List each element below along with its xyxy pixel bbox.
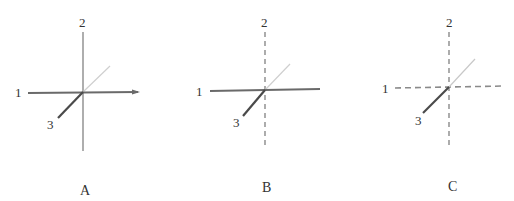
axis-triad-figure: 1 2 3 A 1 2 3 B 1 2 3 C	[0, 0, 514, 201]
axis-3-label: 3	[415, 113, 422, 128]
axis-3-line	[423, 87, 449, 113]
axis-1-arrowhead-icon	[132, 90, 140, 95]
axis-1-label: 1	[15, 85, 22, 100]
panel-c: 1 2 3 C	[382, 15, 505, 194]
panel-caption: C	[448, 179, 457, 194]
axis-3-light-line	[449, 59, 475, 87]
panel-a: 1 2 3 A	[15, 15, 140, 198]
axis-3-light-line	[265, 64, 290, 90]
axis-3-label: 3	[233, 115, 240, 130]
panel-caption: B	[262, 180, 271, 195]
axis-3-label: 3	[47, 117, 54, 132]
axis-2-label: 2	[79, 15, 86, 30]
axis-3-light-line	[83, 66, 110, 92]
axis-1-label: 1	[382, 81, 389, 96]
axis-2-label: 2	[446, 15, 453, 30]
panel-b: 1 2 3 B	[196, 15, 320, 195]
axis-3-line	[243, 90, 265, 116]
axis-3-line	[58, 92, 83, 118]
axis-2-label: 2	[261, 15, 268, 30]
axis-1-label: 1	[196, 84, 203, 99]
panel-caption: A	[80, 183, 91, 198]
